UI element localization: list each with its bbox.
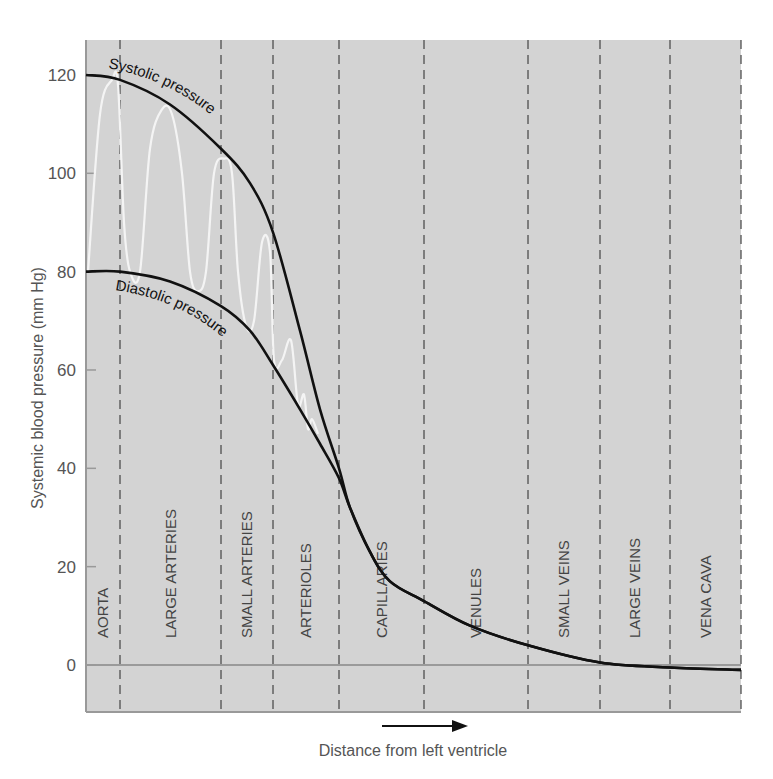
y-tick-label: 100 (48, 164, 76, 183)
region-label: SMALL VEINS (555, 540, 572, 638)
blood-pressure-chart: 020406080100120 AORTALARGE ARTERIESSMALL… (0, 0, 773, 779)
y-tick-label: 0 (67, 656, 76, 675)
y-tick-label: 60 (57, 361, 76, 380)
region-label: SMALL ARTERIES (238, 511, 255, 638)
y-tick-label: 40 (57, 459, 76, 478)
region-label: VENA CAVA (697, 555, 714, 638)
region-label: CAPILLARIES (373, 541, 390, 638)
region-label: LARGE ARTERIES (162, 509, 179, 638)
region-label: ARTERIOLES (297, 543, 314, 638)
region-label: LARGE VEINS (626, 538, 643, 638)
y-tick-label: 20 (57, 558, 76, 577)
region-label: AORTA (94, 588, 111, 638)
y-axis-title: Systemic blood pressure (mm Hg) (29, 267, 47, 509)
direction-arrow-icon (382, 720, 468, 732)
x-axis-title: Distance from left ventricle (319, 742, 508, 760)
y-tick-label: 120 (48, 66, 76, 85)
y-tick-label: 80 (57, 263, 76, 282)
